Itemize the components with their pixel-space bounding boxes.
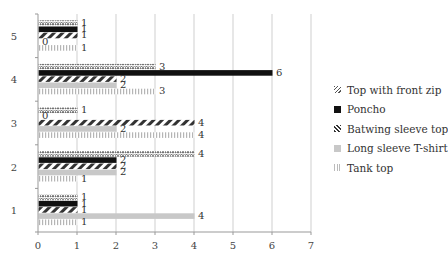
bar	[39, 64, 156, 70]
diagonal-stripe-icon	[334, 125, 341, 132]
value-label: 1	[81, 29, 87, 40]
y-tick-label: 2	[11, 162, 17, 173]
value-label: 3	[159, 85, 165, 96]
legend-item: Tank top	[334, 158, 448, 178]
legend-item: Batwing sleeve top	[334, 119, 448, 139]
bar	[39, 207, 78, 213]
value-label: 1	[81, 216, 87, 227]
bar	[39, 170, 117, 176]
solid-black-icon	[334, 106, 341, 113]
value-label: 1	[81, 42, 87, 53]
value-label: 3	[159, 61, 165, 72]
value-label: 2	[120, 79, 126, 90]
legend-label: Poncho	[347, 103, 386, 115]
bar	[39, 201, 78, 207]
bar	[39, 45, 78, 51]
y-tick-label: 1	[11, 205, 17, 216]
bar	[39, 89, 156, 95]
bar	[39, 76, 117, 82]
bar	[39, 176, 78, 182]
value-label: 4	[198, 129, 204, 140]
light-gray-icon	[334, 145, 341, 152]
value-label: 6	[276, 67, 282, 78]
legend-label: Top with front zip	[347, 84, 441, 96]
legend-label: Batwing sleeve top	[347, 123, 448, 135]
x-tick-label: 3	[152, 240, 158, 251]
bar	[39, 151, 195, 157]
bar	[39, 27, 78, 33]
x-tick-label: 0	[35, 240, 41, 251]
bar	[39, 220, 78, 226]
value-label: 1	[81, 173, 87, 184]
bar	[39, 132, 195, 138]
value-label: 4	[198, 117, 204, 128]
value-label: 2	[120, 166, 126, 177]
bar	[39, 70, 273, 76]
zigzag-pattern-icon	[334, 86, 341, 93]
x-tick-label: 5	[230, 240, 236, 251]
legend-item: Long sleeve T-shirt	[334, 139, 448, 159]
y-tick-label: 3	[11, 118, 17, 129]
bar	[39, 213, 195, 219]
y-tick-label: 4	[11, 74, 17, 85]
x-tick-label: 1	[74, 240, 80, 251]
value-label: 4	[198, 210, 204, 221]
vertical-stripe-icon	[334, 164, 341, 171]
value-label: 1	[81, 204, 87, 215]
x-tick-label: 2	[113, 240, 119, 251]
bar	[39, 195, 78, 201]
bar	[39, 83, 117, 89]
bar	[39, 157, 117, 163]
bar	[39, 20, 78, 26]
legend-label: Tank top	[347, 162, 393, 174]
value-label: 0	[42, 110, 48, 121]
value-label: 2	[120, 123, 126, 134]
y-tick-label: 5	[11, 31, 17, 42]
bar	[39, 164, 117, 170]
legend-item: Top with front zip	[334, 80, 448, 100]
value-label: 1	[81, 104, 87, 115]
bar	[39, 126, 117, 132]
legend-label: Long sleeve T-shirt	[347, 142, 448, 154]
value-label: 0	[42, 36, 48, 47]
x-tick-label: 6	[269, 240, 275, 251]
legend: Top with front zipPonchoBatwing sleeve t…	[334, 80, 448, 178]
legend-item: Poncho	[334, 100, 448, 120]
bar	[39, 120, 195, 126]
x-tick-label: 4	[191, 240, 197, 251]
value-label: 4	[198, 148, 204, 159]
x-tick-label: 7	[308, 240, 314, 251]
bars: 1114142221104243622311101	[39, 17, 283, 227]
